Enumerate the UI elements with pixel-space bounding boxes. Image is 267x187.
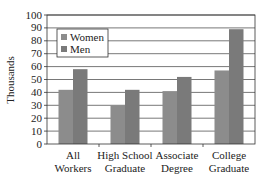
bar-men: [125, 90, 140, 144]
bar-men: [229, 29, 244, 144]
x-category-label: Degree: [161, 162, 193, 174]
y-tick-label: 100: [26, 9, 43, 21]
bar-women: [215, 70, 230, 144]
x-category-label: High School: [97, 149, 152, 161]
y-tick-label: 80: [31, 34, 43, 46]
x-category-label: College: [212, 149, 246, 161]
bar-men: [177, 77, 192, 144]
bar-men: [73, 69, 88, 144]
bar-chart: 0102030405060708090100 AllWorkersHigh Sc…: [0, 0, 267, 187]
legend-swatch-men: [61, 46, 67, 52]
x-category-labels: AllWorkersHigh SchoolGraduateAssociateDe…: [55, 149, 250, 174]
bar-women: [111, 105, 126, 144]
bar-women: [163, 91, 178, 144]
legend-label-men: Men: [70, 43, 91, 55]
y-tick-label: 0: [37, 138, 43, 150]
x-category-label: Associate: [156, 149, 199, 161]
y-tick-label: 10: [31, 125, 43, 137]
x-category-label: Graduate: [105, 162, 145, 174]
x-category-label: All: [66, 149, 80, 161]
y-tick-label: 70: [31, 47, 43, 59]
bar-women: [59, 90, 74, 144]
y-tick-label: 60: [31, 60, 43, 72]
x-category-label: Graduate: [209, 162, 249, 174]
y-tick-label: 90: [31, 21, 43, 33]
y-tick-label: 40: [31, 86, 43, 98]
y-axis-label: Thousands: [4, 56, 16, 104]
y-tick-label: 30: [31, 99, 43, 111]
y-tick-label: 20: [31, 112, 43, 124]
x-category-label: Workers: [55, 162, 92, 174]
y-tick-labels: 0102030405060708090100: [26, 9, 43, 150]
legend: WomenMen: [57, 29, 108, 57]
legend-label-women: Women: [70, 31, 104, 43]
legend-swatch-women: [61, 34, 67, 40]
y-tick-label: 50: [31, 73, 43, 85]
